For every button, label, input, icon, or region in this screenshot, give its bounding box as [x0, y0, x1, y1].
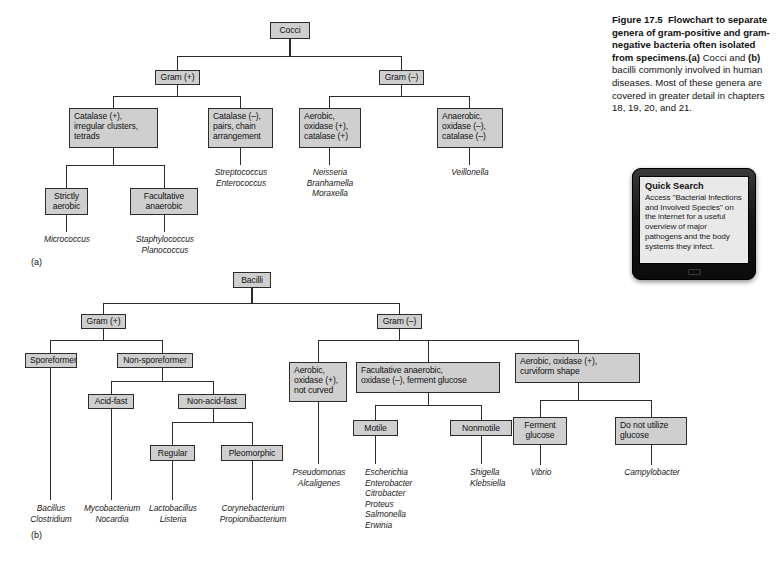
bacilli-do-not-utilize-glucose-box: Do not utilize glucose: [615, 417, 687, 445]
connector-bacilli-curviform-split: [540, 400, 652, 401]
connector-cocci-gp-stem: [177, 85, 178, 96]
caption-a-marker: (a): [688, 52, 700, 63]
bacilli-root-box: Bacilli: [233, 272, 271, 288]
connector-cocci-neisseria: [329, 148, 330, 165]
cocci-genus-neisseria-group: Neisseria Branhamella Moraxella: [307, 167, 353, 199]
connector-bacilli-nonmotile-down: [481, 405, 482, 420]
bacilli-genus-shigella-klebsiella: Shigella Klebsiella: [470, 467, 505, 488]
connector-bacilli-campylobacter-leaf: [651, 445, 652, 465]
quick-search-screen: Quick Search Access "Bacterial Infection…: [640, 177, 748, 263]
cocci-gram-positive-box: Gram (+): [155, 70, 200, 85]
bacilli-nonmotile-box: Nonmotile: [450, 420, 512, 436]
connector-bacilli-vibrio-leaf: [540, 445, 541, 465]
tablet-device-graphic: Quick Search Access "Bacterial Infection…: [632, 168, 756, 280]
connector-bacilli-aerobicnc-down: [318, 340, 319, 362]
connector-bacilli-gp-down: [103, 303, 104, 314]
bacilli-motile-box: Motile: [353, 420, 398, 436]
connector-bacilli-nonspore-down: [162, 340, 163, 353]
bacilli-genus-pseudomonas-alcaligenes: Pseudomonas Alcaligenes: [293, 467, 346, 488]
quick-search-body: Access "Bacterial Infections and Involve…: [645, 193, 743, 251]
connector-cocci-gp-down: [177, 56, 178, 70]
bacilli-ferment-glucose-box: Ferment glucose: [513, 417, 567, 445]
bacilli-facultative-ferment-box: Facultative anaerobic, oxidase (–), ferm…: [356, 362, 500, 393]
connector-bacilli-gn-split: [318, 340, 579, 341]
figure-number: Figure 17.5: [612, 14, 663, 25]
connector-bacilli-noglucose-down: [651, 400, 652, 417]
connector-cocci-split: [177, 56, 402, 57]
connector-bacilli-facult-down: [428, 340, 429, 362]
connector-bacilli-gn-down: [399, 303, 400, 314]
connector-bacilli-nonspore-stem: [162, 368, 163, 381]
bacilli-non-acid-fast-box: Non-acid-fast: [178, 394, 246, 409]
bacilli-sporeformer-box: Sporeformer: [25, 353, 77, 368]
connector-bacilli-myco-leaf: [111, 409, 112, 500]
connector-cocci-gn-down: [401, 56, 402, 70]
connector-cocci-catpos-down: [113, 96, 114, 108]
connector-cocci-strict-down: [66, 165, 67, 188]
connector-cocci-micrococcus: [66, 215, 67, 232]
connector-bacilli-nonspore-split: [111, 381, 214, 382]
cocci-gram-negative-box: Gram (–): [379, 70, 424, 85]
connector-bacilli-split: [103, 303, 400, 304]
connector-bacilli-nonacidfast-down: [213, 381, 214, 394]
connector-bacilli-lacto-leaf: [172, 461, 173, 500]
panel-a-label: (a): [31, 257, 42, 267]
figure-caption: Figure 17.5 Flowchart to separate genera…: [612, 14, 772, 115]
connector-cocci-veillonella: [469, 148, 470, 165]
connector-bacilli-bacillus-leaf: [50, 368, 51, 500]
cocci-strictly-aerobic-box: Strictly aerobic: [45, 188, 88, 215]
connector-cocci-catpos-split: [66, 165, 165, 166]
connector-bacilli-spore-down: [50, 340, 51, 353]
bacilli-genus-myco-nocardia: Mycobacterium Nocardia: [84, 503, 140, 524]
cocci-genus-micrococcus: Micrococcus: [44, 234, 90, 245]
tablet-home-button-icon: [688, 269, 701, 275]
cocci-facultative-anaerobic-box: Facultative anaerobic: [130, 188, 198, 215]
connector-bacilli-gn-stem: [399, 329, 400, 340]
caption-b-marker: (b): [748, 52, 760, 63]
cocci-anaerobic-oxidase-negative-box: Anaerobic, oxidase (–), catalase (–): [437, 108, 503, 148]
connector-bacilli-enterics-leaf: [375, 436, 376, 464]
connector-cocci-aerobic-down: [329, 96, 330, 108]
caption-text-1: Cocci and: [700, 52, 748, 63]
connector-cocci-gn-stem: [401, 85, 402, 96]
bacilli-non-sporeformer-box: Non-sporeformer: [117, 353, 193, 368]
cocci-aerobic-oxidase-positive-box: Aerobic, oxidase (+), catalase (+): [299, 108, 361, 148]
connector-cocci-gn-split: [329, 96, 470, 97]
cocci-catalase-negative-box: Catalase (–), pairs, chain arrangement: [208, 108, 273, 148]
bacilli-genus-coryne-propioni: Corynebacterium Propionibacterium: [220, 503, 287, 524]
bacilli-genus-lacto-listeria: Lactobacillus Listeria: [149, 503, 197, 524]
connector-bacilli-regular-down: [172, 422, 173, 445]
connector-bacilli-acidfast-down: [111, 381, 112, 394]
connector-bacilli-nonacidfast-stem: [213, 409, 214, 422]
bacilli-genus-enterics: Escherichia Enterobacter Citrobacter Pro…: [365, 467, 412, 531]
cocci-root-box: Cocci: [270, 22, 310, 39]
connector-bacilli-gp-stem: [103, 329, 104, 340]
connector-bacilli-facult-stem: [428, 393, 429, 405]
connector-cocci-strep: [240, 148, 241, 165]
cocci-catalase-positive-box: Catalase (+), irregular clusters, tetrad…: [69, 108, 158, 148]
connector-cocci-staph: [164, 215, 165, 232]
bacilli-gram-positive-box: Gram (+): [81, 314, 126, 329]
connector-bacilli-shigella-leaf: [481, 436, 482, 464]
connector-cocci-gp-split: [113, 96, 241, 97]
connector-bacilli-coryne-leaf: [252, 461, 253, 500]
quick-search-title: Quick Search: [645, 181, 743, 192]
connector-cocci-catpos-stem: [113, 148, 114, 165]
connector-bacilli-pleomorphic-down: [252, 422, 253, 445]
bacilli-genus-vibrio: Vibrio: [531, 467, 552, 478]
cocci-genus-veillonella: Veillonella: [451, 167, 488, 178]
connector-bacilli-nonacidfast-split: [172, 422, 252, 423]
bacilli-gram-negative-box: Gram (–): [377, 314, 422, 329]
connector-bacilli-facult-split: [375, 405, 481, 406]
connector-cocci-root-down: [289, 39, 290, 56]
bacilli-aerobic-curviform-box: Aerobic, oxidase (+), curviform shape: [515, 353, 640, 383]
connector-bacilli-curviform-down: [578, 340, 579, 353]
bacilli-regular-box: Regular: [150, 445, 195, 461]
cocci-genus-staph-plano: Staphylococcus Planococcus: [136, 234, 194, 255]
cocci-genus-strep-entero: Streptococcus Enterococcus: [215, 167, 267, 188]
connector-cocci-catneg-down: [240, 96, 241, 108]
connector-cocci-anaerobic-down: [469, 96, 470, 108]
connector-bacilli-motile-down: [375, 405, 376, 420]
connector-bacilli-ferment-down: [540, 400, 541, 417]
connector-bacilli-root-down: [251, 288, 252, 303]
